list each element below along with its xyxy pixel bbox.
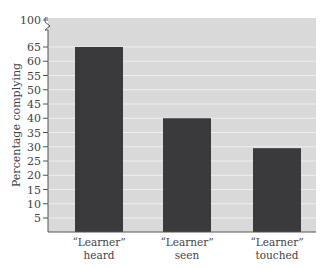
- y-tick-label: 45: [27, 98, 41, 111]
- y-tick-label: 40: [27, 112, 41, 125]
- bar: [75, 47, 123, 232]
- x-category-label: “Learner”: [160, 236, 213, 248]
- y-tick-label: 55: [27, 70, 41, 83]
- y-tick-label: 5: [34, 212, 41, 225]
- x-category-label: heard: [84, 249, 115, 261]
- y-axis-label: Percentage complying: [10, 63, 23, 187]
- bar-chart: 5101520253035404550556065100“Learner”hea…: [0, 0, 326, 269]
- y-tick-label: 50: [27, 84, 41, 97]
- x-category-label: “Learner”: [250, 236, 303, 248]
- y-tick-label: 10: [27, 198, 41, 211]
- y-tick-label: 100: [20, 14, 41, 27]
- y-tick-label: 15: [27, 184, 41, 197]
- y-tick-label: 35: [27, 127, 41, 140]
- x-category-label: seen: [175, 249, 200, 261]
- x-category-label: touched: [256, 249, 299, 261]
- y-tick-label: 60: [27, 55, 41, 68]
- bar: [163, 118, 211, 232]
- y-tick-label: 65: [27, 41, 41, 54]
- x-category-label: “Learner”: [72, 236, 125, 248]
- y-tick-label: 20: [27, 169, 41, 182]
- y-tick-label: 30: [27, 141, 41, 154]
- y-tick-label: 25: [27, 155, 41, 168]
- bar: [253, 148, 301, 232]
